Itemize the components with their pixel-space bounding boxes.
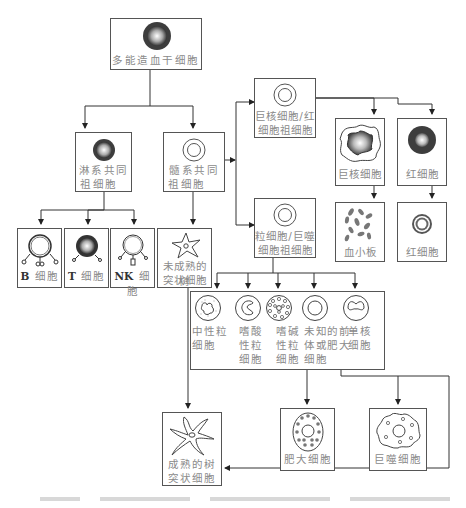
cell-suffix: 细胞 [81, 270, 105, 282]
node-label-2: 祖细胞 [164, 177, 224, 192]
node-label: 红细胞 [398, 167, 446, 182]
precursor-label-2: 体或肥大 [304, 338, 354, 353]
faint-page-bleed [30, 494, 460, 504]
ring-cell-icon [182, 138, 206, 162]
node-label: 巨噬细胞 [370, 452, 426, 467]
mast-cell-icon [291, 411, 325, 453]
node-label-1: 淋系共同 [76, 163, 131, 178]
node-megakaryocyte: 巨核细胞 [335, 118, 385, 186]
t-cell-icon [67, 232, 107, 268]
basophil-icon [265, 294, 293, 322]
mature-dendritic-cell-icon [168, 415, 218, 457]
node-erythroblast: 红细胞 [397, 118, 447, 186]
platelets-icon [339, 206, 383, 244]
node-immature-dendritic-cell: 未成熟的树 突状细胞 [157, 228, 212, 288]
cell-suffix: 细胞 [35, 270, 59, 282]
dendritic-cell-icon [168, 231, 204, 261]
eosinophil-label-3: 细胞 [239, 352, 267, 367]
node-label: B 细胞 [18, 269, 61, 284]
monocyte-label-1: 单核 [348, 324, 378, 339]
node-label-1: 巨核细胞/红 [255, 109, 315, 124]
node-macrophage: 巨噬细胞 [369, 408, 427, 471]
monocyte-label-2: 细胞 [348, 338, 378, 353]
neutrophil-label-1: 中性粒 [192, 324, 232, 339]
nk-cell-icon [113, 232, 153, 268]
cell-prefix: T [68, 270, 76, 282]
eosinophil-label-1: 嗜酸 [239, 324, 267, 339]
node-mast-cell: 肥大细胞 [280, 408, 335, 471]
node-label: 多能造血干细胞 [111, 53, 201, 68]
node-label: 红细胞 [398, 245, 446, 260]
basophil-label-1: 嗜碱 [276, 324, 304, 339]
node-label: 巨核细胞 [336, 167, 384, 182]
red-blood-cell-icon [411, 213, 433, 235]
node-label: 血小板 [336, 245, 384, 260]
precursor-cell-icon [301, 294, 329, 322]
node-hematopoietic-stem-cell: 多能造血干细胞 [110, 18, 202, 70]
node-label: T 细胞 [65, 269, 108, 284]
node-mature-dendritic-cell: 成熟的树 突状细胞 [162, 412, 222, 486]
basophil-label-3: 细胞 [276, 352, 304, 367]
megakaryocyte-icon [338, 123, 382, 163]
node-label-2: 祖细胞 [76, 177, 131, 192]
stem-cell-icon [142, 21, 172, 51]
node-common-lymphoid-progenitor: 淋系共同 祖细胞 [75, 132, 132, 192]
node-t-cell: T 细胞 [64, 228, 109, 288]
cell-prefix: NK [114, 270, 133, 282]
node-label: NK 细胞 [111, 269, 154, 299]
cell-prefix: B [20, 270, 29, 282]
node-label-2: 突状细胞 [163, 471, 221, 486]
ring-cell-icon [273, 203, 297, 227]
eosinophil-icon [234, 294, 262, 322]
node-label-2: 细胞祖细胞 [255, 123, 315, 138]
node-label-1: 成熟的树 [163, 457, 221, 472]
node-label: 肥大细胞 [281, 452, 334, 467]
node-label-1: 粒细胞/巨噬 [255, 229, 315, 244]
node-b-cell: B 细胞 [17, 228, 62, 288]
node-common-myeloid-progenitor: 髓系共同 祖细胞 [163, 132, 225, 192]
node-label-2: 突状细胞 [158, 273, 211, 288]
neutrophil-icon [194, 294, 222, 322]
neutrophil-label-2: 细胞 [192, 338, 232, 353]
eosinophil-label-2: 性粒 [239, 338, 267, 353]
precursor-label-1: 未知的前 [304, 324, 354, 339]
monocyte-icon [342, 294, 370, 322]
node-platelets: 血小板 [335, 202, 385, 262]
basophil-label-2: 性粒 [276, 338, 304, 353]
node-label-2: 细胞祖细胞 [255, 243, 315, 258]
node-nk-cell: NK 细胞 [110, 228, 155, 288]
macrophage-icon [374, 411, 424, 451]
ring-cell-icon [273, 83, 297, 107]
precursor-label-3: 细胞 [304, 352, 354, 367]
dark-cell-icon [92, 138, 116, 162]
node-gm-progenitor: 粒细胞/巨噬 细胞祖细胞 [254, 198, 316, 258]
node-erythrocyte: 红细胞 [397, 202, 447, 262]
node-group-granulocytes: 中性粒 细胞 嗜酸 性粒 细胞 嗜碱 性粒 细胞 未知的前 体或肥大 细胞 单核… [190, 291, 385, 370]
node-mk-erythroid-progenitor: 巨核细胞/红 细胞祖细胞 [254, 78, 316, 138]
node-label-1: 髓系共同 [164, 163, 224, 178]
b-cell-icon [20, 232, 60, 268]
nucleated-red-cell-icon [407, 125, 437, 155]
